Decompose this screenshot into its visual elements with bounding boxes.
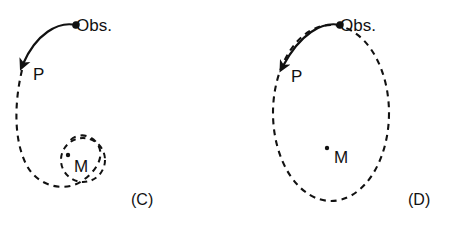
mass-label-d: M <box>334 148 348 167</box>
elliptical-orbit-path <box>273 25 389 201</box>
mass-label-c: M <box>74 157 88 176</box>
observer-arrow-icon-d <box>283 24 340 66</box>
observer-arrow-icon <box>23 24 76 64</box>
observer-label-c: Obs. <box>76 16 112 35</box>
figure-canvas: Obs. P M (C) Obs. P M (D) <box>0 0 463 228</box>
orbit-figure: Obs. P M (C) Obs. P M (D) <box>0 0 463 228</box>
panel-c: Obs. P M (C) <box>16 16 153 208</box>
mass-point-icon <box>66 153 70 157</box>
periapsis-label-c: P <box>33 65 44 84</box>
periapsis-label-d: P <box>291 67 302 86</box>
observer-label-d: Obs. <box>340 16 376 35</box>
panel-caption-d: (D) <box>408 191 430 208</box>
mass-point-icon-d <box>325 146 329 150</box>
panel-d: Obs. P M (D) <box>273 16 430 208</box>
panel-caption-c: (C) <box>131 191 153 208</box>
